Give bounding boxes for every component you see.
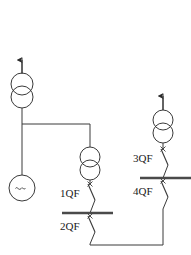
generator: [9, 175, 35, 201]
schematic-canvas: 1QF 2QF: [0, 0, 191, 255]
breaker-1qf-label: 1QF: [60, 187, 80, 199]
right-transformer-winding-secondary: [153, 123, 173, 143]
generator-ac-wave-icon: [16, 188, 26, 190]
bottom-tie-line: [90, 209, 163, 245]
breaker-1qf-lower-lead: [90, 200, 95, 213]
middle-transformer-winding-primary: [80, 147, 100, 167]
breaker-3qf-contact-blade: [161, 149, 168, 165]
breaker-1qf-contact-blade: [88, 184, 95, 200]
middle-transformer-winding-secondary: [80, 160, 100, 180]
middle-transformer: [80, 147, 100, 184]
breaker-2qf-contact-blade: [88, 216, 95, 232]
left-circuit-conductors: [22, 108, 90, 175]
breaker-2qf[interactable]: 2QF: [60, 214, 95, 245]
breaker-3qf-label: 3QF: [133, 152, 153, 164]
breaker-4qf[interactable]: 4QF: [133, 179, 168, 210]
breaker-4qf-lower-lead: [163, 197, 168, 209]
breaker-1qf[interactable]: 1QF: [60, 182, 95, 214]
schematic-diagram: 1QF 2QF: [0, 0, 191, 255]
breaker-3qf-lower-lead: [163, 165, 168, 178]
right-transformer-winding-primary: [153, 110, 173, 130]
breaker-4qf-contact-blade: [161, 181, 168, 197]
right-transformer: [153, 110, 173, 149]
breaker-3qf[interactable]: 3QF: [133, 147, 168, 179]
breaker-2qf-lower-lead: [90, 232, 95, 244]
breaker-4qf-label: 4QF: [133, 185, 153, 197]
left-transformer-winding-primary: [11, 73, 33, 95]
breaker-2qf-label: 2QF: [60, 220, 80, 232]
left-transformer-winding-secondary: [11, 86, 33, 108]
left-transformer: [11, 73, 33, 108]
